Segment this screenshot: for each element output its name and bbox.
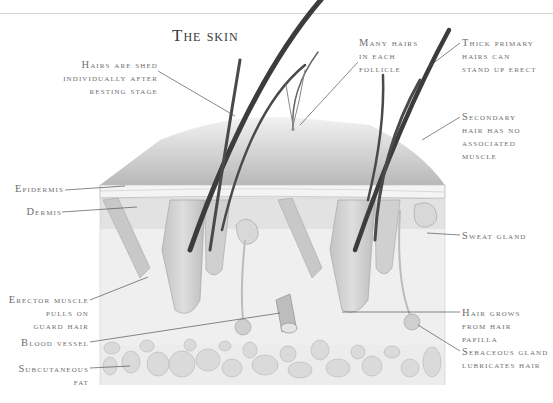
label-epidermis: Epidermis — [0, 182, 64, 195]
label-sweat-gland: Sweat gland — [462, 229, 527, 242]
label-blood-vessel: Blood vessel — [0, 336, 89, 349]
label-many-hairs: Many hairs in each follicle — [359, 36, 418, 75]
label-hairs-shed: Hairs are shed individually after restin… — [40, 58, 158, 97]
label-erector-muscle: Erector muscle pulls on guard hair — [0, 293, 89, 332]
label-thick-primary: Thick primary hairs can stand up erect — [462, 36, 537, 75]
label-secondary-hair: Secondary hair has no associated muscle — [462, 110, 521, 162]
label-hair-grows: Hair grows from hair papilla — [462, 306, 521, 345]
label-sebaceous-gland: Sebaceous gland lubricates hair — [462, 345, 548, 371]
label-dermis: Dermis — [0, 205, 62, 218]
diagram-title: The skin — [172, 26, 239, 46]
label-subcutaneous-fat: Subcutaneous fat — [0, 362, 89, 388]
